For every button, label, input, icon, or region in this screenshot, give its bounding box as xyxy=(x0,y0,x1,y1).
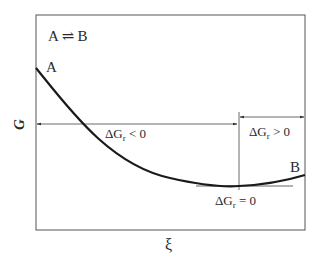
plot-frame xyxy=(36,15,305,230)
region-right-label: ΔGr > 0 xyxy=(249,124,290,141)
reaction-label: A⇌B xyxy=(48,28,87,44)
y-axis-label: G xyxy=(11,119,27,130)
curve-end-label: B xyxy=(290,159,300,175)
gibbs-energy-diagram: A⇌B A B G ξ ΔGr < 0 ΔGr > 0 ΔGr = 0 xyxy=(0,0,320,261)
curve-start-label: A xyxy=(46,59,57,75)
equilibrium-label: ΔGr = 0 xyxy=(215,193,256,210)
x-axis-label: ξ xyxy=(165,236,172,253)
region-left-label: ΔGr < 0 xyxy=(105,126,146,143)
